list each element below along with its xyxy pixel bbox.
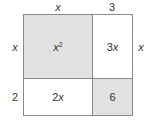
cell-6: 6 xyxy=(93,79,132,115)
cell-x-squared: x2 xyxy=(24,15,92,78)
top-label-3: 3 xyxy=(106,1,118,13)
cell-x-squared-exponent: 2 xyxy=(59,41,63,48)
cell-6-text: 6 xyxy=(109,91,115,103)
right-label-x: x xyxy=(136,41,146,53)
cell-3x-var: x xyxy=(113,41,119,53)
horizontal-divider xyxy=(24,78,132,79)
left-label-2: 2 xyxy=(10,91,20,103)
top-label-x: x xyxy=(52,1,64,13)
cell-2x-text: 2x xyxy=(52,91,64,103)
cell-x-squared-text: x2 xyxy=(53,41,62,53)
cell-2x-var: x xyxy=(58,91,64,103)
left-label-x: x xyxy=(10,41,20,53)
cell-3x: 3x xyxy=(93,15,132,78)
area-model-grid: x2 3x 2x 6 xyxy=(23,14,133,116)
cell-2x: 2x xyxy=(24,79,92,115)
cell-3x-text: 3x xyxy=(107,41,119,53)
vertical-divider xyxy=(92,15,93,115)
